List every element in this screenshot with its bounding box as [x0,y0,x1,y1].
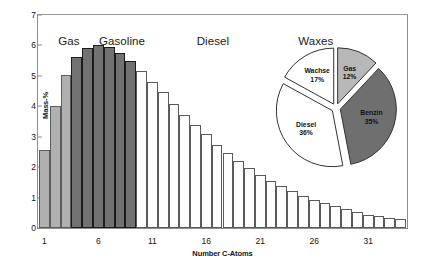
y-tick-mark [38,136,42,137]
pie-slice-name: Diesel [276,121,336,129]
x-tick-label: 11 [140,237,164,246]
bar [374,216,385,228]
bar [341,209,352,228]
bar [212,145,223,228]
bar [287,191,298,228]
pie-slice-label: Benzin35% [342,109,402,126]
bar [276,186,287,228]
pie-slice-label: Wachse17% [287,67,347,84]
y-tick-label: 7 [22,11,36,20]
bar [158,92,169,228]
region-label: Gasoline [99,35,145,47]
x-tick-label: 16 [194,237,218,246]
bar [352,212,363,228]
bar [330,206,341,228]
bar [320,203,331,228]
y-tick-mark [38,106,42,107]
pie-slice-name: Wachse [287,67,347,75]
bar [50,106,61,228]
bar [201,134,212,228]
bar [125,61,136,228]
x-tick-label: 1 [32,237,56,246]
pie-slice-name: Benzin [342,109,402,117]
y-tick-label: 4 [22,102,36,111]
y-tick-mark [38,45,42,46]
x-tick-label: 31 [356,237,380,246]
pie-slice-value: 36% [276,129,336,137]
bar [223,153,234,228]
bar [39,150,50,228]
bar [363,215,374,228]
pie-slice-label: Diesel36% [276,121,336,138]
y-tick-mark [38,15,42,16]
x-tick-label: 6 [86,237,110,246]
pie-chart: Gas12%Benzin35%Diesel36%Wachse17% [268,42,404,174]
chart-figure: Mass-% 01234567 161116212631 GasGasoline… [0,0,425,271]
bar [179,115,190,228]
region-label: Diesel [197,35,230,47]
y-tick-label: 0 [22,224,36,233]
bar [266,181,277,228]
bar [233,161,244,228]
bar [147,82,158,228]
region-label: Gas [58,35,79,47]
bar [104,47,115,228]
bar [169,104,180,228]
bar [71,57,82,228]
bar [190,125,201,228]
bar [61,75,72,228]
bar [298,196,309,228]
bar [93,45,104,228]
x-axis-title: Number C-Atoms [37,249,408,258]
bar [82,48,93,228]
y-tick-label: 1 [22,193,36,202]
y-tick-label: 6 [22,41,36,50]
bar [136,71,147,228]
bar [384,218,395,228]
bar [395,219,406,228]
y-tick-label: 5 [22,72,36,81]
bar [115,53,126,228]
y-tick-label: 2 [22,163,36,172]
bar [244,168,255,228]
pie-slice-value: 17% [287,76,347,84]
x-tick-label: 21 [248,237,272,246]
pie-chart-svg [268,42,404,174]
bar [255,175,266,228]
y-tick-mark [38,75,42,76]
x-tick-label: 26 [302,237,326,246]
pie-slice-value: 35% [342,118,402,126]
y-tick-label: 3 [22,132,36,141]
bar [309,200,320,228]
